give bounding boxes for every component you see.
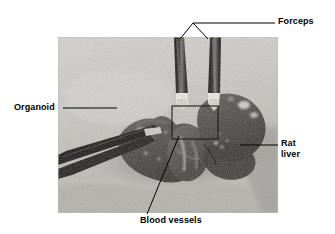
specimen-photograph — [58, 37, 278, 213]
annotation-label-blood-vessels: Blood vessels — [140, 215, 202, 226]
annotation-label-forceps: Forceps — [278, 16, 314, 27]
photograph-canvas — [58, 37, 278, 213]
photo-grain — [58, 37, 278, 213]
annotation-label-rat-liver: Rat liver — [281, 138, 300, 159]
annotation-label-organoid: Organoid — [14, 102, 55, 113]
figure-panel: Forceps Organoid Rat liver Blood vessels — [0, 0, 335, 234]
